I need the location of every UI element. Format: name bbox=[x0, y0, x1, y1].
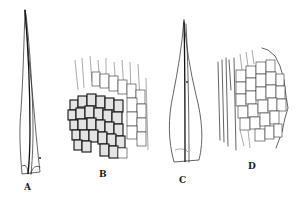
panel-label-d: D bbox=[248, 162, 256, 171]
figure-plate: A B C D bbox=[0, 0, 302, 201]
panel-label-a: A bbox=[24, 183, 31, 192]
cell-detail-d bbox=[0, 0, 302, 201]
panel-label-b: B bbox=[99, 170, 107, 179]
panel-label-c: C bbox=[179, 176, 186, 185]
